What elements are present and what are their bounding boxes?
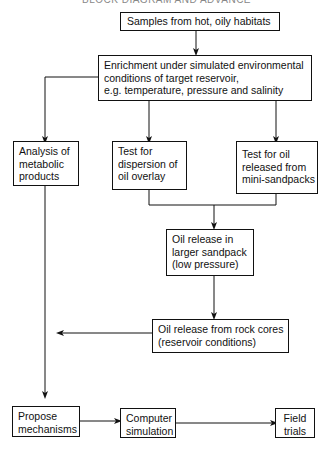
- node-text: Test for oil: [242, 148, 312, 161]
- node-simulation: Computer simulation: [120, 408, 176, 438]
- node-text: (low pressure): [172, 258, 248, 271]
- node-text: Field: [281, 412, 309, 425]
- node-text: mechanisms: [18, 423, 74, 436]
- node-larger-sandpack: Oil release in larger sandpack (low pres…: [166, 229, 254, 276]
- node-text: Computer: [126, 412, 170, 425]
- node-text: conditions of target reservoir,: [104, 72, 306, 85]
- node-text: Analysis of: [19, 145, 73, 158]
- node-text: (reservoir conditions): [158, 336, 283, 349]
- node-text: Test for: [118, 145, 181, 158]
- node-propose: Propose mechanisms: [12, 406, 80, 437]
- node-text: e.g. temperature, pressure and salinity: [104, 84, 306, 97]
- node-text: Oil release from rock cores: [158, 323, 283, 336]
- node-rock-cores: Oil release from rock cores (reservoir c…: [152, 319, 289, 353]
- node-field: Field trials: [275, 408, 315, 438]
- node-samples: Samples from hot, oily habitats: [120, 12, 280, 31]
- node-text: Enrichment under simulated environmental: [104, 59, 306, 72]
- node-text: larger sandpack: [172, 246, 248, 259]
- node-text: trials: [281, 425, 309, 438]
- node-text: dispersion of: [118, 158, 181, 171]
- node-text: mini-sandpacks: [242, 173, 312, 186]
- node-analysis: Analysis of metabolic products: [13, 141, 79, 186]
- node-text: oil overlay: [118, 170, 181, 183]
- node-enrichment: Enrichment under simulated environmental…: [98, 55, 312, 101]
- node-text: Propose: [18, 410, 74, 423]
- node-text: Oil release in: [172, 233, 248, 246]
- node-mini-sandpacks: Test for oil released from mini-sandpack…: [236, 141, 318, 194]
- node-text: Samples from hot, oily habitats: [127, 15, 273, 28]
- node-text: metabolic: [19, 158, 73, 171]
- node-text: products: [19, 170, 73, 183]
- node-dispersion: Test for dispersion of oil overlay: [112, 141, 187, 190]
- node-text: simulation: [126, 425, 170, 438]
- node-text: released from: [242, 161, 312, 174]
